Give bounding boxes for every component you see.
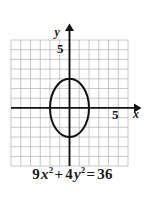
equation-coefficient-x: 9	[31, 166, 41, 182]
ellipse-graph-figure: y x 5 5 9x2+4y2=36	[0, 0, 145, 198]
equation-coefficient-y: 4	[64, 166, 74, 182]
x-axis-tick-label-5: 5	[112, 107, 119, 122]
equation-plus-operator: +	[53, 166, 64, 182]
equation-variable-x: x	[41, 166, 49, 182]
y-axis-arrow-icon	[65, 24, 74, 32]
equation-caption: 9x2+4y2=36	[0, 166, 145, 183]
equation-equals-operator: =	[85, 166, 96, 182]
equation-variable-y: y	[74, 166, 81, 182]
y-axis-tick-label-5: 5	[57, 41, 64, 56]
equation-right-hand-side: 36	[96, 166, 113, 182]
x-axis-label: x	[132, 107, 139, 121]
y-axis-label: y	[53, 25, 61, 39]
